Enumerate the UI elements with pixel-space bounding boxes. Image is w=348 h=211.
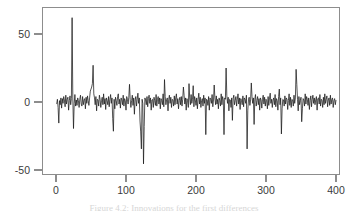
x-tick-label-300: 300 [257,184,275,196]
x-tick-label-200: 200 [187,184,205,196]
y-tick-label-50: 50 [18,28,30,40]
figure-caption: Figure 4.2: Innovations for the first di… [0,203,348,211]
y-axis-ticks [34,34,43,170]
plot-frame [43,8,340,175]
x-axis-ticks [56,175,336,183]
innovations-series-line [57,18,336,164]
y-tick-label-0: 0 [24,96,30,108]
x-tick-label-0: 0 [53,184,59,196]
residual-line-chart: -50 0 50 0 100 200 300 400 [0,0,348,211]
y-tick-label-neg50: -50 [15,164,30,176]
x-tick-label-100: 100 [117,184,135,196]
figure-container: -50 0 50 0 100 200 300 400 Figure 4.2: I… [0,0,348,211]
y-axis-tick-labels: -50 0 50 [15,28,30,176]
x-tick-label-400: 400 [327,184,345,196]
x-axis-tick-labels: 0 100 200 300 400 [53,184,345,196]
